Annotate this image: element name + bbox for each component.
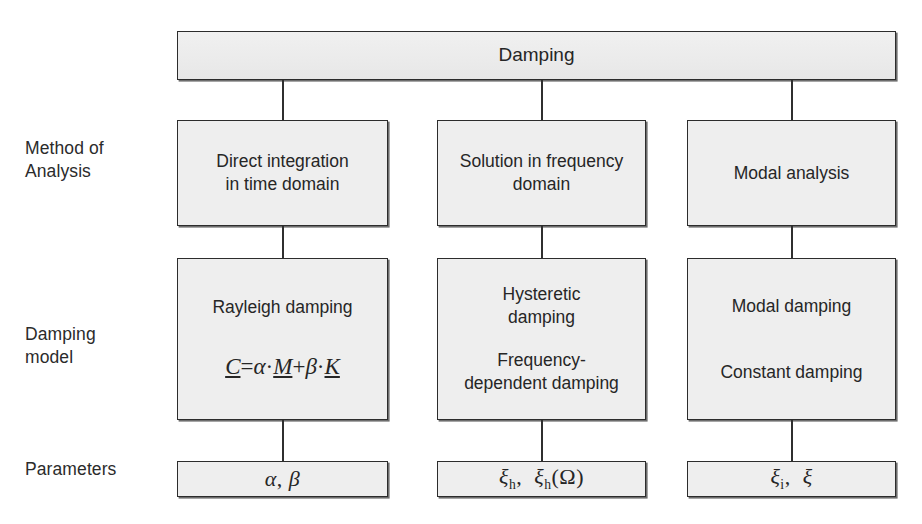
param-symbol-xi-h-2: ξ xyxy=(534,464,544,489)
connector-method-to-model-column-1 xyxy=(282,226,284,258)
node-method-modal-analysis: Modal analysis xyxy=(687,120,896,226)
node-damping-root: Damping xyxy=(177,31,896,80)
param-symbol-xi-i: ξ xyxy=(770,464,780,489)
node-model-rayleigh-formula: C=α·M+β·K xyxy=(225,352,340,382)
param-separator-3: , xyxy=(785,464,803,489)
node-model-hysteretic-damping: Hysteretic damping Frequency- dependent … xyxy=(437,258,646,420)
node-method-direct-integration: Direct integration in time domain xyxy=(177,120,388,226)
param-symbol-alpha: α xyxy=(265,466,277,491)
node-model-modal-damping: Modal damping Constant damping xyxy=(687,258,896,420)
node-parameters-hysteretic-label: ξh, ξh(Ω) xyxy=(499,463,584,494)
row-label-parameters: Parameters xyxy=(25,458,116,481)
connector-model-to-parameters-column-2 xyxy=(541,420,543,461)
connector-model-to-parameters-column-3 xyxy=(791,420,793,461)
param-symbol-beta: β xyxy=(289,466,300,491)
param-argument-omega: (Ω) xyxy=(551,464,584,489)
node-model-hysteretic-secondary-label: Frequency- dependent damping xyxy=(440,349,643,395)
node-model-modal-primary-label: Modal damping xyxy=(690,295,893,318)
connector-method-to-model-column-2 xyxy=(541,226,543,258)
node-method-frequency-domain: Solution in frequency domain xyxy=(437,120,646,226)
node-model-hysteretic-primary-label: Hysteretic damping xyxy=(440,283,643,329)
connector-root-to-column-1 xyxy=(282,80,284,120)
node-model-rayleigh-damping: Rayleigh damping C=α·M+β·K xyxy=(177,258,388,420)
node-model-rayleigh-damping-label: Rayleigh damping xyxy=(212,296,352,319)
formula-lhs-c: C xyxy=(225,354,240,379)
node-method-modal-analysis-label: Modal analysis xyxy=(734,162,850,185)
formula-alpha: α xyxy=(253,354,265,379)
connector-model-to-parameters-column-1 xyxy=(282,420,284,461)
formula-matrix-k: K xyxy=(325,354,340,379)
node-parameters-modal: ξi, ξ xyxy=(687,461,896,497)
param-separator-1: , xyxy=(277,466,289,491)
formula-beta: β xyxy=(305,354,316,379)
param-symbol-xi: ξ xyxy=(803,464,813,489)
figure-canvas: Method of Analysis Damping model Paramet… xyxy=(0,0,922,524)
node-model-modal-stack: Modal damping Constant damping xyxy=(688,259,895,419)
node-model-modal-secondary-label: Constant damping xyxy=(690,361,893,384)
formula-equals: = xyxy=(240,354,253,379)
row-label-damping-model: Damping model xyxy=(25,323,96,369)
formula-dot-2: · xyxy=(317,354,325,379)
formula-plus: + xyxy=(292,354,305,379)
row-label-method-of-analysis: Method of Analysis xyxy=(25,137,104,183)
node-parameters-modal-label: ξi, ξ xyxy=(770,463,812,494)
node-method-direct-integration-label: Direct integration in time domain xyxy=(216,150,348,196)
connector-root-to-column-2 xyxy=(541,80,543,120)
node-parameters-hysteretic: ξh, ξh(Ω) xyxy=(437,461,646,497)
connector-method-to-model-column-3 xyxy=(791,226,793,258)
formula-matrix-m: M xyxy=(273,354,292,379)
node-parameters-rayleigh: α, β xyxy=(177,461,388,497)
param-symbol-xi-h-1: ξ xyxy=(499,464,509,489)
node-model-hysteretic-stack: Hysteretic damping Frequency- dependent … xyxy=(438,259,645,419)
param-separator-2: , xyxy=(516,464,534,489)
connector-root-to-column-3 xyxy=(791,80,793,120)
node-method-frequency-domain-label: Solution in frequency domain xyxy=(460,150,623,196)
node-damping-root-label: Damping xyxy=(498,43,574,68)
node-parameters-rayleigh-label: α, β xyxy=(265,465,301,494)
